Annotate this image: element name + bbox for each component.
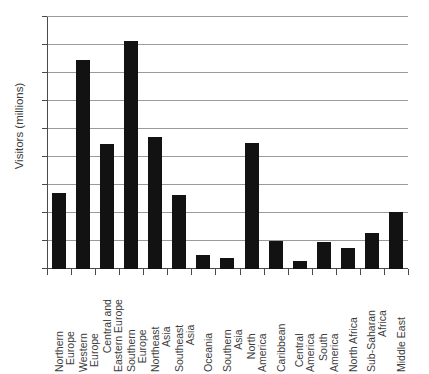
x-axis-label-line: Southern <box>222 329 233 372</box>
bar <box>245 143 259 269</box>
x-label-slot: NorthernEurope <box>47 275 71 374</box>
x-axis-label-line: Northeast <box>150 326 161 372</box>
x-label-slot: North Africa <box>336 275 360 374</box>
bar <box>317 242 331 269</box>
bar <box>196 255 210 269</box>
bar <box>148 137 162 269</box>
bar-slot <box>240 17 264 269</box>
bar <box>293 261 307 269</box>
x-label-slot: Oceania <box>191 275 215 374</box>
bar <box>341 248 355 269</box>
bar-slot <box>360 17 384 269</box>
bar-slot <box>264 17 288 269</box>
x-label-slot: SouthernEurope <box>119 275 143 374</box>
x-axis-label-line: Oceania <box>203 333 214 372</box>
x-label-slot: WesternEurope <box>71 275 95 374</box>
bar-slot <box>215 17 239 269</box>
bar <box>365 233 379 269</box>
x-axis-label-line: Central and <box>102 299 113 372</box>
bar-slot <box>47 17 71 269</box>
x-axis-label-line: North Africa <box>348 317 359 372</box>
bar-slot <box>288 17 312 269</box>
bar-slot <box>336 17 360 269</box>
bar <box>269 241 283 269</box>
x-axis-label-line: Caribbean <box>276 324 287 372</box>
x-label-slot: NortheastAsia <box>143 275 167 374</box>
bar <box>220 258 234 269</box>
bar-slot <box>312 17 336 269</box>
bar-slot <box>384 17 408 269</box>
x-axis-label-line: Northern <box>54 331 65 372</box>
bar-slot <box>119 17 143 269</box>
x-axis-label-line: Middle East <box>396 317 407 372</box>
x-label-slot: Caribbean <box>264 275 288 374</box>
bar <box>100 144 114 269</box>
x-axis-label-line: Southeast <box>174 325 185 372</box>
x-label-slot: Central andEastern Europe <box>95 275 119 374</box>
bar-slot <box>167 17 191 269</box>
x-axis-labels: NorthernEuropeWesternEuropeCentral andEa… <box>47 275 408 374</box>
x-tick-mark <box>408 269 409 275</box>
bar-slot <box>143 17 167 269</box>
x-label-slot: SouthAmerica <box>312 275 336 374</box>
bar-chart: Visitors (millions) 02040608010012014016… <box>0 0 429 374</box>
x-label-slot: Middle East <box>384 275 408 374</box>
bar-slot <box>95 17 119 269</box>
bar <box>389 212 403 269</box>
bar <box>124 41 138 269</box>
bar <box>172 195 186 269</box>
x-axis-label: Middle East <box>396 317 407 372</box>
x-label-slot: Sub-SaharanAfrica <box>360 275 384 374</box>
x-axis-label: Caribbean <box>276 324 287 372</box>
x-label-slot: SoutheastAsia <box>167 275 191 374</box>
x-axis-label: Oceania <box>203 333 214 372</box>
x-axis-label: North Africa <box>348 317 359 372</box>
bar-slot <box>71 17 95 269</box>
x-label-slot: SouthernAsia <box>215 275 239 374</box>
bar <box>76 60 90 269</box>
x-label-slot: NorthAmerica <box>240 275 264 374</box>
x-axis-label-line: Western <box>78 333 89 372</box>
bar-series <box>47 17 408 269</box>
bar <box>52 193 66 269</box>
x-label-slot: CentralAmerica <box>288 275 312 374</box>
bar-slot <box>191 17 215 269</box>
y-axis-title: Visitors (millions) <box>13 61 25 191</box>
plot-area: 020406080100120140160180 <box>47 17 408 269</box>
x-axis-label-line: Southern <box>126 329 137 372</box>
x-axis-label-line: North <box>246 333 257 372</box>
